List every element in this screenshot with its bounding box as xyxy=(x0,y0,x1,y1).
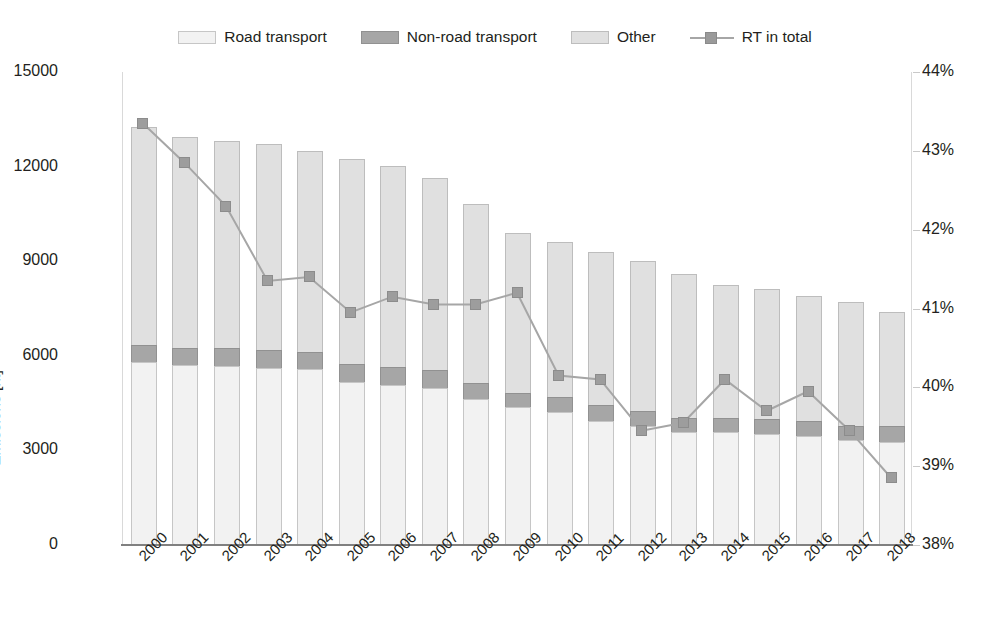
bar-segment xyxy=(172,365,198,546)
bar-stack[interactable] xyxy=(754,289,780,545)
bar-stack[interactable] xyxy=(630,261,656,545)
y-axis-right-tick-label: 40% xyxy=(922,378,988,394)
line-marker[interactable] xyxy=(636,425,647,436)
bar-segment xyxy=(671,432,697,546)
line-marker[interactable] xyxy=(262,275,273,286)
y-axis-right-tick-mark xyxy=(913,309,920,310)
bar-segment xyxy=(713,285,739,419)
bar-stack[interactable] xyxy=(380,166,406,545)
legend-line-marker-rt-in-total-icon xyxy=(690,31,734,44)
y-axis-tick-label: 12000 xyxy=(0,158,58,174)
bar-segment xyxy=(380,385,406,546)
bar-segment xyxy=(131,127,157,346)
line-marker[interactable] xyxy=(387,291,398,302)
bar-stack[interactable] xyxy=(172,137,198,545)
bar-segment xyxy=(297,151,323,353)
bar-segment xyxy=(172,348,198,365)
bar-segment xyxy=(131,345,157,362)
bar-stack[interactable] xyxy=(796,296,822,545)
bar-segment xyxy=(214,366,240,546)
line-marker[interactable] xyxy=(553,370,564,381)
y-axis-right-tick-label: 44% xyxy=(922,63,988,79)
line-marker[interactable] xyxy=(844,425,855,436)
legend-item-road-transport[interactable]: Road transport xyxy=(178,28,327,46)
line-marker[interactable] xyxy=(886,472,897,483)
legend-label-non-road-transport: Non-road transport xyxy=(407,28,537,46)
y-axis-tick-label: 3000 xyxy=(0,441,58,457)
line-marker[interactable] xyxy=(595,374,606,385)
bar-segment xyxy=(713,418,739,434)
bar-segment xyxy=(214,141,240,349)
bar-stack[interactable] xyxy=(422,178,448,545)
line-marker[interactable] xyxy=(220,201,231,212)
bar-segment xyxy=(796,296,822,422)
line-marker[interactable] xyxy=(803,386,814,397)
bar-segment xyxy=(879,312,905,427)
bar-segment xyxy=(547,397,573,413)
y-axis-right-tick-mark xyxy=(913,387,920,388)
bar-segment xyxy=(422,178,448,372)
line-marker[interactable] xyxy=(179,157,190,168)
bar-segment xyxy=(256,368,282,546)
line-marker[interactable] xyxy=(428,299,439,310)
y-axis-tick-label: 6000 xyxy=(0,347,58,363)
bar-stack[interactable] xyxy=(547,242,573,545)
bar-stack[interactable] xyxy=(588,252,614,545)
plot-area xyxy=(122,72,912,545)
bar-segment xyxy=(838,440,864,546)
legend-swatch-non-road-transport-icon xyxy=(361,31,399,44)
y-axis-right-tick-mark xyxy=(913,230,920,231)
y-axis-right-tick-label: 43% xyxy=(922,142,988,158)
y-axis-right-tick-mark xyxy=(913,545,920,546)
bar-stack[interactable] xyxy=(671,274,697,545)
bar-segment xyxy=(380,367,406,386)
y-axis-tick-label: 9000 xyxy=(0,252,58,268)
line-marker[interactable] xyxy=(345,307,356,318)
line-marker[interactable] xyxy=(678,417,689,428)
bar-stack[interactable] xyxy=(297,151,323,545)
line-marker[interactable] xyxy=(512,287,523,298)
bar-segment xyxy=(630,261,656,412)
bar-stack[interactable] xyxy=(463,204,489,545)
line-marker[interactable] xyxy=(470,299,481,310)
bar-segment xyxy=(879,426,905,443)
bar-segment xyxy=(588,421,614,546)
line-marker[interactable] xyxy=(761,405,772,416)
bar-stack[interactable] xyxy=(838,302,864,545)
y-axis-right-tick-mark xyxy=(913,466,920,467)
legend-swatch-other-icon xyxy=(571,31,609,44)
bar-segment xyxy=(505,407,531,546)
bar-segment xyxy=(422,388,448,546)
y-axis-right-tick-label: 38% xyxy=(922,536,988,552)
line-marker[interactable] xyxy=(137,118,148,129)
bar-segment xyxy=(713,432,739,546)
bar-segment xyxy=(630,426,656,546)
bar-segment xyxy=(463,383,489,400)
bar-stack[interactable] xyxy=(505,233,531,545)
legend-label-rt-in-total: RT in total xyxy=(742,28,812,46)
bar-segment xyxy=(422,370,448,389)
bar-segment xyxy=(796,421,822,437)
bar-segment xyxy=(463,399,489,546)
legend-item-other[interactable]: Other xyxy=(571,28,656,46)
legend-label-other: Other xyxy=(617,28,656,46)
bar-stack[interactable] xyxy=(713,285,739,545)
y-axis-right-tick-label: 39% xyxy=(922,457,988,473)
y-axis-tick-label: 15000 xyxy=(0,63,58,79)
bar-segment xyxy=(172,137,198,350)
bar-stack[interactable] xyxy=(256,144,282,545)
bar-segment xyxy=(256,144,282,351)
bar-stack[interactable] xyxy=(131,127,157,545)
bar-segment xyxy=(131,362,157,546)
bar-segment xyxy=(796,436,822,546)
bar-stack[interactable] xyxy=(339,159,365,545)
y-axis-right-tick-label: 42% xyxy=(922,221,988,237)
y-axis-right-tick-label: 41% xyxy=(922,300,988,316)
legend-item-rt-in-total[interactable]: RT in total xyxy=(690,28,812,46)
bar-segment xyxy=(256,350,282,369)
line-marker[interactable] xyxy=(304,271,315,282)
line-marker[interactable] xyxy=(719,374,730,385)
bar-stack[interactable] xyxy=(879,312,905,545)
bar-segment xyxy=(339,382,365,546)
legend-item-non-road-transport[interactable]: Non-road transport xyxy=(361,28,537,46)
